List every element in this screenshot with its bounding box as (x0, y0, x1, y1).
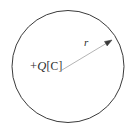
figure-canvas: +Q[C] r (0, 0, 136, 135)
charge-label: +Q[C] (30, 60, 62, 73)
radius-label: r (84, 37, 88, 48)
charge-unit: [C] (46, 60, 62, 72)
diagram-svg (0, 0, 136, 135)
radius-arrowhead-icon (104, 40, 112, 46)
